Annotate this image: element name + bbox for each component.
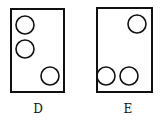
figure-e-label: E	[118, 102, 138, 116]
figure-e	[97, 8, 152, 92]
figure-d-frame	[11, 9, 64, 92]
figure-e-circle-3	[120, 67, 138, 85]
figure-d-circle-1	[16, 16, 34, 34]
figure-d-circle-2	[16, 40, 34, 58]
figure-d-circle-3	[41, 67, 59, 85]
figure-e-frame	[97, 8, 152, 92]
figure-e-circle-2	[97, 67, 115, 85]
figure-d-label: D	[28, 102, 48, 116]
figure-d	[11, 9, 64, 92]
figure-e-circle-1	[128, 15, 146, 33]
